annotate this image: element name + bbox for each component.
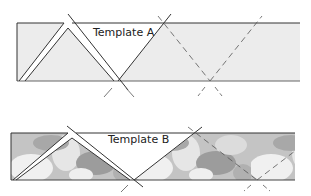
template-b: Template B bbox=[11, 126, 295, 192]
template-a: Template A bbox=[17, 14, 300, 97]
template-a-label: Template A bbox=[92, 26, 155, 39]
template-diagram: Template A Template B bbox=[0, 0, 311, 196]
template-b-label: Template B bbox=[107, 133, 169, 146]
